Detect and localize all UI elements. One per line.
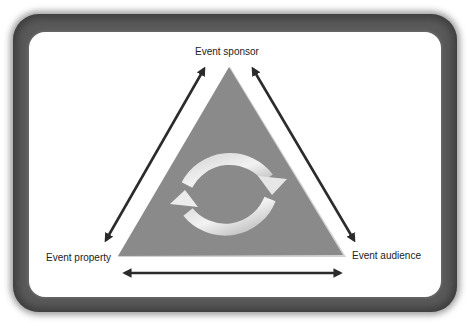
- node-label-event-sponsor: Event sponsor: [195, 46, 259, 57]
- node-label-event-property: Event property: [46, 252, 111, 263]
- node-label-event-audience: Event audience: [352, 250, 421, 261]
